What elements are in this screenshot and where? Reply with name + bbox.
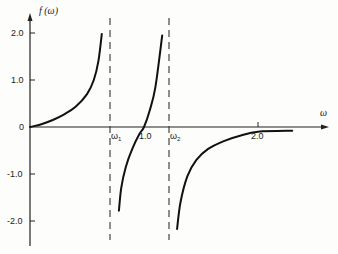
x-axis (30, 125, 329, 130)
y-axis-arrow-icon (28, 13, 33, 21)
svg-text:1: 1 (118, 136, 122, 142)
svg-text:ω: ω (170, 131, 177, 141)
curve-branch-2 (119, 35, 162, 210)
y-tick-label-2: 2.0 (11, 28, 24, 38)
plot-area: f (ω) ω 2.0 1.0 0 -1.0 -2.0 1.0 2.0 ω 1 … (0, 0, 338, 254)
omega2-label: ω 2 (170, 131, 181, 142)
svg-text:2: 2 (177, 136, 181, 142)
y-axis (28, 13, 33, 246)
curve-branch-1 (30, 34, 102, 127)
omega1-label: ω 1 (111, 131, 122, 142)
svg-text:ω: ω (111, 131, 118, 141)
y-tick-label-m1: -1.0 (7, 169, 23, 179)
x-axis-label: ω (320, 107, 327, 118)
y-tick-label-m2: -2.0 (7, 216, 23, 226)
y-tick-label-1: 1.0 (11, 75, 24, 85)
y-tick-label-0: 0 (19, 122, 24, 132)
chart: f (ω) ω 2.0 1.0 0 -1.0 -2.0 1.0 2.0 ω 1 … (0, 0, 338, 254)
curve-branch-3 (177, 131, 292, 229)
x-tick-label-1: 1.0 (139, 131, 152, 141)
x-tick-label-2: 2.0 (251, 131, 264, 141)
y-axis-label: f (ω) (39, 5, 59, 17)
x-axis-arrow-icon (321, 125, 329, 130)
